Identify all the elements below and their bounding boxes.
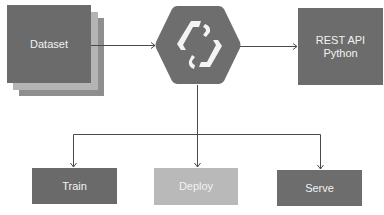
diagram-canvas: Dataset REST API Python Train Deploy Ser… bbox=[0, 0, 384, 215]
connector-lines bbox=[0, 0, 384, 215]
